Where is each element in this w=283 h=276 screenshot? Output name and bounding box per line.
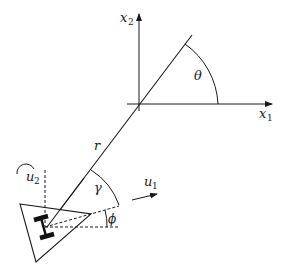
diagram-canvas: x 2 x 1 θ r γ ϕ u 2 u 1 xyxy=(0,0,283,276)
u1-label: u 1 xyxy=(144,174,158,191)
svg-text:2: 2 xyxy=(34,176,40,186)
svg-text:x: x xyxy=(259,106,267,121)
phi-arc xyxy=(105,210,107,227)
phi-label: ϕ xyxy=(108,212,116,226)
u2-label: u 2 xyxy=(26,169,40,186)
x1-axis-label: x 1 xyxy=(259,106,273,123)
svg-text:1: 1 xyxy=(267,113,273,123)
u1-arrow-icon xyxy=(132,194,157,200)
x2-axis-label: x 2 xyxy=(120,10,134,27)
robot-body xyxy=(20,204,91,262)
gamma-label: γ xyxy=(94,180,102,195)
theta-label: θ xyxy=(194,68,202,83)
svg-text:2: 2 xyxy=(128,17,134,27)
svg-text:1: 1 xyxy=(152,181,158,191)
svg-text:x: x xyxy=(120,10,128,25)
r-label: r xyxy=(94,138,101,153)
